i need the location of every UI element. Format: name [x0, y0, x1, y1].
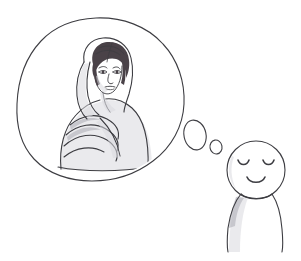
- sketch-canvas: Hand-drawn pencil sketch: a simple smili…: [0, 0, 301, 261]
- pupil-left: [102, 71, 105, 74]
- pupil-right: [116, 71, 119, 74]
- drawing-surface: [0, 0, 301, 261]
- paper-background: [0, 0, 301, 261]
